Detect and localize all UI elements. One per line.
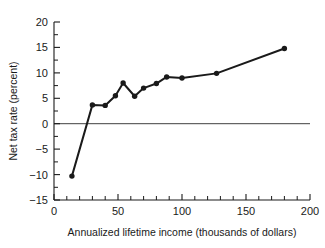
data-point [103,103,108,108]
data-point [132,94,137,99]
y-tick-label: −5 [35,143,48,155]
data-point [214,71,219,76]
x-tick-label: 50 [112,205,124,217]
y-tick-label: 5 [42,92,48,104]
x-tick-label: 150 [237,205,255,217]
y-tick-label: 15 [36,41,48,53]
x-axis-tick-labels: 0 50 100 150 200 [51,205,319,217]
data-point [179,75,184,80]
chart-figure: 20 15 10 5 0 −5 −10 −15 [0,0,325,248]
data-series-markers [69,46,287,179]
y-tick-label: 0 [42,118,48,130]
data-point [69,173,74,178]
y-axis-minor-ticks [54,35,58,188]
data-point [120,80,125,85]
y-tick-label: −10 [29,169,48,181]
data-point [282,46,287,51]
x-tick-label: 100 [173,205,191,217]
y-axis-tick-labels: 20 15 10 5 0 −5 −10 −15 [29,16,48,206]
data-point [164,74,169,79]
x-axis-title: Annualized lifetime income (thousands of… [68,226,297,238]
y-tick-label: 20 [36,16,48,28]
x-tick-label: 200 [301,205,319,217]
data-series-line [72,48,284,176]
y-axis-title: Net tax rate (percent) [7,61,19,160]
x-tick-label: 0 [51,205,57,217]
y-tick-label: 10 [36,67,48,79]
y-tick-label: −15 [29,194,48,206]
data-point [90,102,95,107]
line-chart: 20 15 10 5 0 −5 −10 −15 [0,0,325,248]
data-point [154,81,159,86]
data-point [113,93,118,98]
data-point [141,85,146,90]
